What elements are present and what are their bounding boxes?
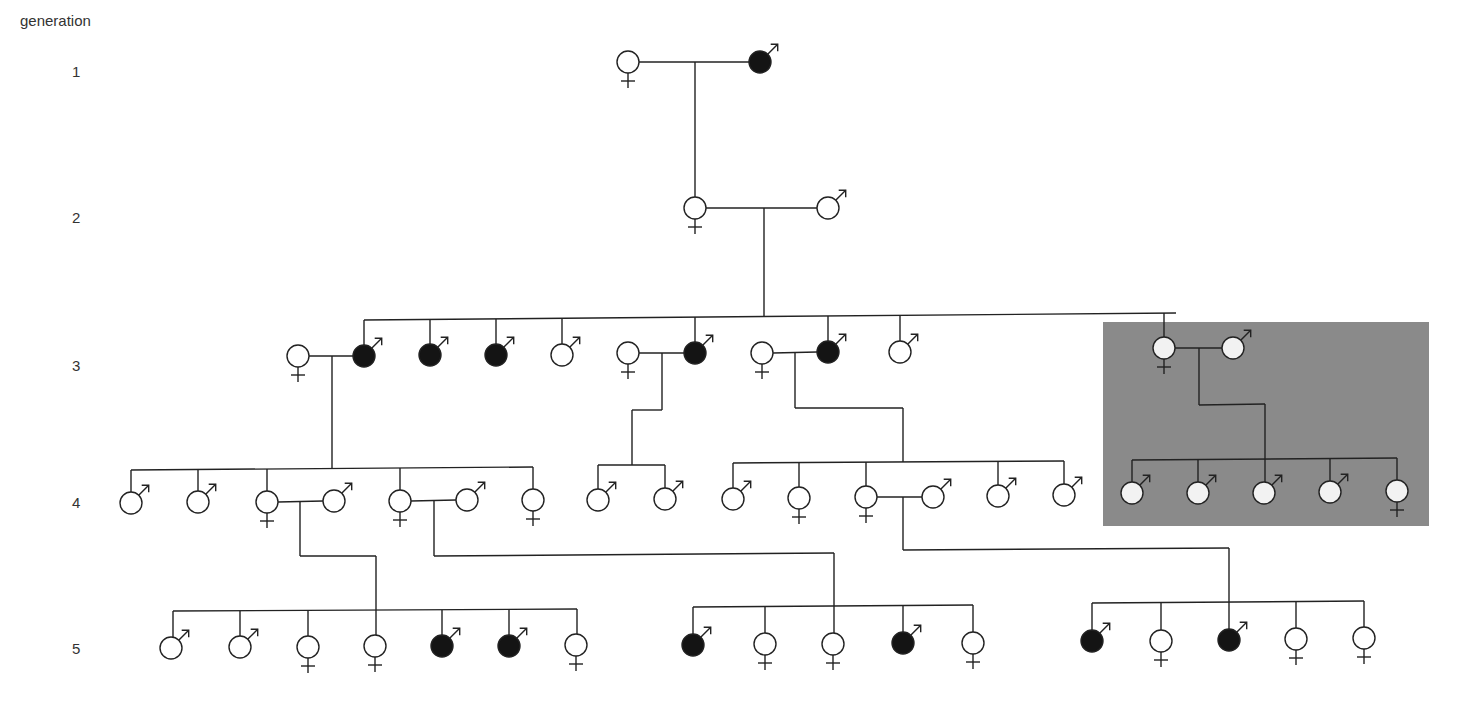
female-symbol-icon (291, 367, 305, 382)
male-symbol-icon (517, 628, 527, 638)
individual-g2-f1 (684, 197, 706, 234)
male-symbol-icon (941, 479, 951, 489)
unaffected-circle-icon (256, 491, 278, 513)
female-symbol-icon (301, 658, 315, 673)
connector-line (1199, 404, 1265, 405)
individual-g4-m10 (1053, 477, 1082, 506)
male-symbol-icon (372, 338, 382, 348)
pedigree-chart: generation 1 2 3 4 5 (0, 0, 1467, 706)
individual-g5-f1 (297, 636, 319, 673)
individual-g4-m9 (987, 478, 1016, 507)
connector-line (411, 500, 456, 501)
individual-g5-m3 (431, 628, 460, 657)
individual-g4-m4 (456, 482, 485, 511)
female-symbol-icon (368, 657, 382, 672)
individual-g3-m2 (419, 337, 448, 366)
female-symbol-icon (859, 508, 873, 523)
individual-g3-m1 (353, 338, 382, 367)
male-symbol-icon (701, 627, 711, 637)
individual-g4-m8 (922, 479, 951, 508)
male-symbol-icon (438, 337, 448, 347)
individual-g5-m6 (892, 625, 921, 654)
female-symbol-icon (569, 656, 583, 671)
male-symbol-icon (908, 334, 918, 344)
individual-g3-f2 (617, 342, 639, 379)
individual-g3-f1 (287, 345, 309, 382)
male-symbol-icon (450, 628, 460, 638)
male-symbol-icon (911, 625, 921, 635)
male-symbol-icon (179, 630, 189, 640)
unaffected-circle-icon (617, 51, 639, 73)
individual-g4-f5 (855, 486, 877, 523)
male-symbol-icon (248, 629, 258, 639)
unaffected-circle-icon (364, 635, 386, 657)
male-symbol-icon (1006, 478, 1016, 488)
male-symbol-icon (504, 337, 514, 347)
male-symbol-icon (673, 481, 683, 491)
individual-g3-m3 (485, 337, 514, 366)
male-symbol-icon (741, 481, 751, 491)
female-symbol-icon (966, 654, 980, 669)
female-symbol-icon (792, 509, 806, 524)
female-symbol-icon (688, 219, 702, 234)
unaffected-circle-icon (1285, 628, 1307, 650)
male-symbol-icon (836, 334, 846, 344)
male-symbol-icon (836, 190, 846, 200)
connector-line (1092, 601, 1364, 603)
individual-g5-f8 (1285, 628, 1307, 665)
pedigree-diagram (0, 0, 1467, 706)
male-symbol-icon (139, 485, 149, 495)
female-symbol-icon (1289, 650, 1303, 665)
individual-g5-m4 (498, 628, 527, 657)
individual-g1-f1 (617, 51, 639, 88)
unaffected-circle-icon (522, 489, 544, 511)
female-symbol-icon (758, 655, 772, 670)
unaffected-circle-icon (788, 487, 810, 509)
individual-g5-f6 (962, 632, 984, 669)
male-symbol-icon (342, 483, 352, 493)
female-symbol-icon (1357, 649, 1371, 664)
male-symbol-icon (1100, 623, 1110, 633)
individual-g4-m7 (722, 481, 751, 510)
individual-g4-m2 (187, 484, 216, 513)
individual-g4-m3 (323, 483, 352, 512)
individual-g3-m5 (684, 335, 713, 364)
male-symbol-icon (1072, 477, 1082, 487)
unaffected-circle-icon (855, 486, 877, 508)
unaffected-circle-icon (1353, 627, 1375, 649)
female-symbol-icon (755, 364, 769, 379)
unaffected-circle-icon (297, 636, 319, 658)
individual-g5-f2 (364, 635, 386, 672)
connector-line (434, 553, 834, 556)
individual-g5-m5 (682, 627, 711, 656)
connector-line (903, 548, 1229, 550)
individual-g5-m7 (1081, 623, 1110, 652)
female-symbol-icon (526, 511, 540, 526)
individual-g5-f9 (1353, 627, 1375, 664)
individual-g5-f4 (754, 633, 776, 670)
unaffected-circle-icon (751, 342, 773, 364)
female-symbol-icon (1154, 652, 1168, 667)
individual-g3-f3 (751, 342, 773, 379)
connector-line (364, 313, 1176, 320)
male-symbol-icon (475, 482, 485, 492)
unaffected-circle-icon (684, 197, 706, 219)
unaffected-circle-icon (1386, 480, 1408, 502)
unaffected-circle-icon (617, 342, 639, 364)
unaffected-circle-icon (962, 632, 984, 654)
unaffected-circle-icon (1153, 337, 1175, 359)
connector-line (278, 501, 323, 502)
individual-g4-f2 (389, 490, 411, 527)
female-symbol-icon (393, 512, 407, 527)
male-symbol-icon (768, 44, 778, 54)
individual-g1-m1 (749, 44, 778, 73)
individual-g5-f3 (565, 634, 587, 671)
individual-g5-m2 (229, 629, 258, 658)
individual-g5-f7 (1150, 630, 1172, 667)
unaffected-circle-icon (565, 634, 587, 656)
individual-g4-m5 (587, 482, 616, 511)
individual-g5-f5 (822, 633, 844, 670)
male-symbol-icon (570, 337, 580, 347)
female-symbol-icon (826, 655, 840, 670)
male-symbol-icon (206, 484, 216, 494)
